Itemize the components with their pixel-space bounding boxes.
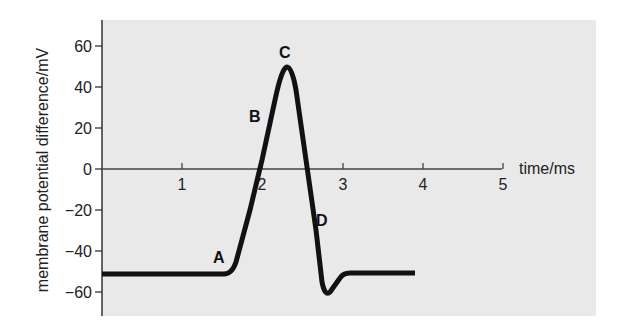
y-tick-label: −20 [65,202,92,219]
y-tick-label: 60 [74,38,92,55]
point-label-b: B [249,108,261,125]
x-tick-label: 1 [178,176,187,193]
x-tick-label: 4 [419,176,428,193]
point-label-d: D [316,212,328,229]
point-label-c: C [279,44,291,61]
y-tick-label: 40 [74,79,92,96]
y-tick-labels: 60 40 20 0 −20 −40 −60 [65,38,92,301]
point-label-a: A [213,249,225,266]
y-ticks [95,46,102,292]
action-potential-chart: 60 40 20 0 −20 −40 −60 1 2 3 4 5 time/ms… [0,0,626,332]
y-tick-label: 20 [74,120,92,137]
y-tick-label: −40 [65,243,92,260]
y-tick-label: 0 [83,161,92,178]
x-tick-label: 5 [499,176,508,193]
y-axis-label: membrane potential difference/mV [34,48,51,293]
y-tick-label: −60 [65,284,92,301]
x-axis-label: time/ms [519,160,575,177]
x-tick-label: 3 [339,176,348,193]
